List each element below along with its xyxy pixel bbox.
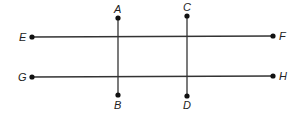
label-h: H xyxy=(279,70,287,82)
point-d xyxy=(184,93,189,98)
segment-ef xyxy=(32,36,273,37)
point-c xyxy=(184,13,189,18)
label-e: E xyxy=(19,31,27,43)
point-f xyxy=(270,33,275,38)
label-g: G xyxy=(18,71,27,83)
point-e xyxy=(29,34,34,39)
label-b: B xyxy=(114,99,121,111)
label-d: D xyxy=(183,99,191,111)
diagram-canvas: A B C D E F G H xyxy=(0,0,303,120)
point-b xyxy=(115,92,120,97)
label-c: C xyxy=(183,1,191,13)
label-a: A xyxy=(113,3,121,15)
segment-gh xyxy=(32,76,273,77)
point-g xyxy=(29,74,34,79)
point-h xyxy=(270,73,275,78)
label-f: F xyxy=(279,30,287,42)
diagram-svg: A B C D E F G H xyxy=(0,0,303,120)
point-a xyxy=(115,15,120,20)
